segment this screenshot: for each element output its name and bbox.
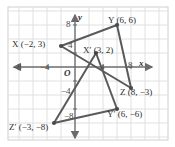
point-label-Z-prime: Z′ (−3, −8) [9, 123, 48, 132]
point-label-Z: Z (8, −3) [120, 88, 152, 97]
point-label-Y-prime: Y′ (6, −6) [107, 110, 142, 119]
point-label-X-prime: X′ (3, 2) [83, 46, 113, 55]
x-tick-label-pos4: 4 [100, 63, 105, 72]
vertex-Z-prime [52, 121, 56, 125]
x-tick-label-neg4: −4 [40, 63, 50, 72]
vertex-X [59, 44, 63, 48]
origin-label: O [64, 69, 71, 78]
x-axis-label: x [139, 59, 144, 68]
y-tick-label-pos4: 4 [68, 41, 73, 50]
y-axis-label: y [78, 13, 82, 22]
plot-panel [8, 7, 168, 140]
x-tick-label-neg8: −8 [12, 63, 22, 72]
y-tick-label-pos8: 8 [66, 20, 71, 29]
y-tick-label-neg4: −4 [61, 87, 71, 96]
graph-figure: −8 −4 4 8 8 4 −4 −8 O x y X (−2, 3) Y (6… [0, 0, 175, 147]
point-label-Y: Y (6, 6) [108, 16, 136, 25]
point-label-X: X (−2, 3) [12, 40, 45, 49]
y-tick-label-neg8: −8 [64, 112, 74, 121]
x-tick-label-pos8: 8 [128, 61, 133, 70]
